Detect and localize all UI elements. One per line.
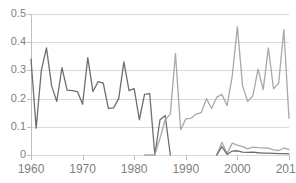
gridline: [31, 155, 289, 156]
y-axis-tick-label: 0: [0, 149, 26, 160]
y-axis-tick-mark: [27, 127, 32, 128]
y-axis-tick-mark: [27, 42, 32, 43]
x-axis-tick-mark: [134, 155, 135, 160]
y-axis-tick-label: 0.3: [0, 64, 26, 75]
y-axis-tick-label: 0.4: [0, 36, 26, 47]
x-axis-tick-label: 1970: [60, 163, 106, 176]
y-axis-tick-label: 0.5: [0, 8, 26, 19]
series-line-series-light-main: [145, 27, 289, 155]
chart-title-clipped: [0, 0, 296, 7]
x-axis-tick-label: 2000: [214, 163, 260, 176]
x-axis-tick-label: 1960: [8, 163, 54, 176]
x-axis-tick-mark: [83, 155, 84, 160]
series-line-series-light-small: [217, 142, 289, 155]
y-axis-tick-mark: [27, 14, 32, 15]
y-axis-line: [31, 14, 32, 156]
x-axis-tick-label: 1980: [111, 163, 157, 176]
y-axis-tick-label: 0.1: [0, 121, 26, 132]
gridline: [31, 14, 289, 15]
y-axis-tick-mark: [27, 70, 32, 71]
x-axis-tick-mark: [289, 155, 290, 160]
y-axis-tick-label: 0.2: [0, 93, 26, 104]
series-line-series-dark-early: [31, 48, 170, 155]
gridline: [31, 99, 289, 100]
x-axis-tick-label: 2010: [266, 163, 296, 176]
chart-container: 00.10.20.30.40.5 19601970198019902000201…: [0, 0, 296, 183]
gridline: [31, 127, 289, 128]
x-axis-tick-mark: [186, 155, 187, 160]
y-axis-tick-mark: [27, 99, 32, 100]
x-axis-tick-label: 1990: [163, 163, 209, 176]
x-axis-tick-mark: [237, 155, 238, 160]
gridline: [31, 70, 289, 71]
gridline: [31, 42, 289, 43]
x-axis-tick-mark: [31, 155, 32, 160]
series-line-series-dark-small: [217, 147, 289, 155]
